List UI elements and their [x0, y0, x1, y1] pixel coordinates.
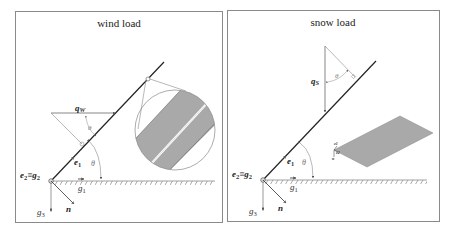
- load-diagrams: wind load qW θ θ e1 e2≡g2 g1 g3: [0, 0, 457, 234]
- ground-hatch: [52, 181, 215, 185]
- panel-title: snow load: [311, 16, 356, 28]
- theta-top-label: θ: [335, 72, 339, 80]
- theta-top-label: θ: [88, 124, 92, 132]
- inset-e2-label: e2: [336, 150, 340, 155]
- snow-load-panel: snow load qS θ θ e1 e2≡g2 g1 g3: [228, 11, 440, 222]
- n-label: n: [278, 203, 283, 213]
- panel-frame: [228, 11, 440, 222]
- theta-base-label: θ: [91, 159, 95, 168]
- n-label: n: [66, 204, 71, 214]
- ground-hatch: [264, 180, 427, 184]
- panel-title: wind load: [97, 17, 141, 29]
- inset-e1-label: e1: [334, 141, 338, 146]
- wind-load-panel: wind load qW θ θ e1 e2≡g2 g1 g3: [16, 12, 231, 223]
- theta-base-label: θ: [302, 158, 306, 167]
